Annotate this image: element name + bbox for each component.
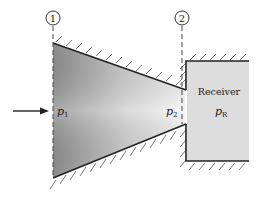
station-1-marker: 1 [46,11,60,25]
station-1-label: 1 [50,13,56,24]
station-2-marker: 2 [175,11,189,25]
station-2-label: 2 [179,13,185,24]
receiver-label: Receiver [198,86,241,97]
inflow-arrow-icon [13,108,49,115]
nozzle-diagram: 1 2 p1 p2 Receiver pR [0,0,261,199]
